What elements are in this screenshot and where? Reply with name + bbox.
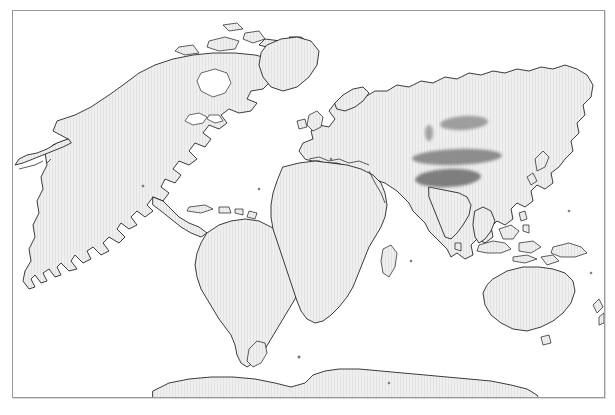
island-tasmania: [541, 335, 551, 345]
island-ireland: [297, 119, 307, 129]
island-speck: [410, 260, 412, 262]
island-speck: [388, 382, 390, 384]
island-speck: [142, 185, 144, 187]
map-figure: [0, 0, 615, 415]
island-speck: [568, 210, 570, 212]
range-patch-west-sliver: [425, 125, 433, 141]
map-frame: [12, 10, 605, 398]
island-speck: [298, 356, 300, 358]
world-map-svg: [13, 11, 604, 397]
island-speck: [590, 272, 592, 274]
island-speck: [330, 158, 332, 160]
island-speck: [258, 188, 260, 190]
